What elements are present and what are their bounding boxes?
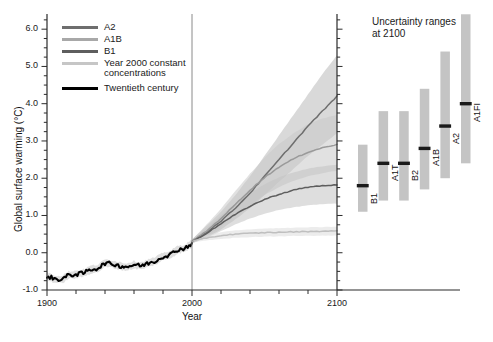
legend-swatch-b1 bbox=[62, 50, 98, 53]
legend-label-a2: A2 bbox=[104, 22, 116, 32]
uncertainty-panel-title: Uncertainty ranges at 2100 bbox=[372, 16, 456, 39]
best-estimate-marker-b1 bbox=[357, 184, 369, 187]
legend-label-b1: B1 bbox=[104, 46, 116, 56]
uncertainty-bar-label-a2: A2 bbox=[451, 133, 461, 144]
legend-swatch-year-2000-constant bbox=[62, 62, 98, 65]
uncertainty-bar-a1fi bbox=[461, 14, 471, 163]
uncertainty-bar-label-a1t: A1T bbox=[390, 165, 400, 182]
best-estimate-marker-a1t bbox=[377, 162, 389, 165]
x-tick-label: 1900 bbox=[31, 298, 63, 308]
uncertainty-band-twentieth-century bbox=[47, 240, 192, 283]
y-tick-label: 0.0 bbox=[8, 247, 38, 257]
best-estimate-marker-a1b bbox=[419, 147, 431, 150]
legend-swatch-twentieth-century bbox=[62, 87, 98, 90]
uncertainty-bar-label-b2: B2 bbox=[410, 170, 420, 181]
uncertainty-bar-a1b bbox=[420, 89, 430, 190]
x-tick-label: 2000 bbox=[176, 298, 208, 308]
best-estimate-marker-a2 bbox=[439, 124, 451, 127]
uncertainty-bar-a1t bbox=[379, 111, 389, 200]
figure-canvas: -1.00.01.02.03.04.05.06.0Global surface … bbox=[0, 0, 493, 342]
uncertainty-bar-b1 bbox=[358, 145, 368, 212]
best-estimate-marker-a1fi bbox=[460, 102, 472, 105]
legend-label-year-2000-constant: Year 2000 constant concentrations bbox=[104, 58, 186, 78]
legend-swatch-a2 bbox=[62, 26, 98, 29]
x-axis-title: Year bbox=[170, 311, 214, 322]
y-axis-title: Global surface warming (°C) bbox=[13, 106, 24, 232]
legend-label-twentieth-century: Twentieth century bbox=[104, 83, 178, 93]
uncertainty-bar-label-a1b: A1B bbox=[431, 149, 441, 166]
uncertainty-bar-b2 bbox=[399, 111, 409, 200]
x-tick-label: 2100 bbox=[321, 298, 353, 308]
y-tick-label: 6.0 bbox=[8, 23, 38, 33]
y-tick-label: 5.0 bbox=[8, 60, 38, 70]
legend-label-a1b: A1B bbox=[104, 34, 122, 44]
uncertainty-bar-label-a1fi: A1FI bbox=[472, 103, 482, 122]
legend-swatch-a1b bbox=[62, 38, 98, 41]
y-tick-label: -1.0 bbox=[8, 284, 38, 294]
uncertainty-bar-label-b1: B1 bbox=[369, 193, 379, 204]
uncertainty-bar-a2 bbox=[440, 52, 450, 179]
